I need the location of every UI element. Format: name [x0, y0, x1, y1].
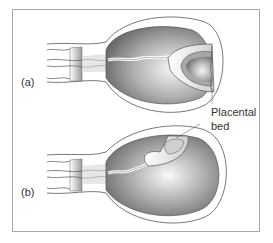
panel-a-uterus	[47, 17, 223, 112]
panel-b-uterus	[47, 124, 226, 223]
placental-bed-label-line2: bed	[211, 119, 256, 133]
placental-bed-label-line1: Placental	[211, 105, 256, 119]
panel-label-b: (b)	[21, 186, 34, 198]
panel-label-a: (a)	[21, 76, 34, 88]
placental-bed-label: Placental bed	[211, 105, 256, 133]
